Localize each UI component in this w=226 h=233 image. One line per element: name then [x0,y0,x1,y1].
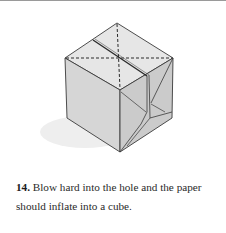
step-number: 14. [16,181,30,193]
step-caption: 14. Blow hard into the hole and the pape… [16,178,221,216]
step-text: Blow hard into the hole and the paper sh… [16,181,201,212]
cube-illustration [0,0,226,170]
